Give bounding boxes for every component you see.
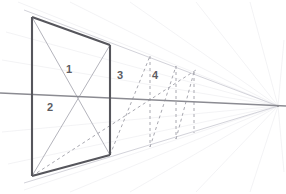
- region-label-1: 1: [66, 63, 72, 75]
- region-label-3: 3: [117, 69, 123, 81]
- region-label-2: 2: [47, 101, 53, 113]
- region-label-4: 4: [152, 69, 159, 81]
- perspective-diagram: 1 2 3 4: [0, 0, 286, 194]
- vanishing-point-marker: [277, 105, 279, 107]
- perspective-canvas: 1 2 3 4: [0, 0, 286, 194]
- paper-background: [0, 0, 286, 194]
